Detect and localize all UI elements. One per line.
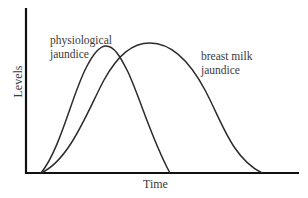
physiological-jaundice-curve	[41, 46, 170, 173]
chart-canvas	[0, 0, 308, 198]
physiological-label-line2: jaundice	[50, 48, 89, 61]
y-axis-label: Levels	[11, 62, 26, 102]
physiological-label-line1: physiological	[50, 34, 112, 47]
breast-milk-label-line1: breast milk	[201, 50, 252, 63]
breast-milk-label-line2: jaundice	[201, 64, 240, 77]
x-axis-label: Time	[143, 178, 168, 191]
